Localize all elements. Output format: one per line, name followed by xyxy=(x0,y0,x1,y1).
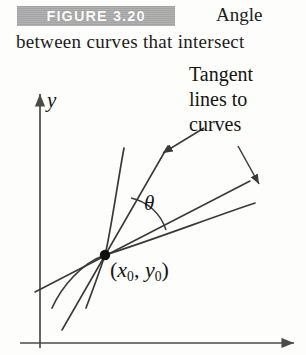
point-label-x: x xyxy=(117,257,127,282)
diagram-canvas: y θ (x0, y0) Tangent lines to curves xyxy=(0,58,306,355)
point-label-comma: , xyxy=(134,257,145,282)
curve-shallow xyxy=(52,203,255,308)
figure-number-banner: FIGURE 3.20 xyxy=(17,6,175,26)
leader-arrow-shallow-tangent xyxy=(238,146,259,184)
tangent-line-steep xyxy=(62,146,168,330)
caption-second-line: between curves that intersect xyxy=(16,31,245,53)
tangent-lines-annotation: Tangent lines to curves xyxy=(189,62,253,137)
annotation-line-3: curves xyxy=(189,112,253,137)
annotation-line-1: Tangent xyxy=(189,62,253,87)
intersection-point-label: (x0, y0) xyxy=(110,257,169,285)
point-label-x-subscript: 0 xyxy=(127,269,134,284)
y-axis-label: y xyxy=(47,88,56,113)
figure-caption: FIGURE 3.20 Angle between curves that in… xyxy=(0,0,306,60)
annotation-line-2: lines to xyxy=(189,87,253,112)
point-label-close-paren: ) xyxy=(161,257,168,282)
point-label-y: y xyxy=(145,257,155,282)
figure-number-label: FIGURE 3.20 xyxy=(17,6,175,26)
angle-theta-label: θ xyxy=(144,191,154,216)
caption-first-word: Angle xyxy=(216,4,262,26)
figure-page: FIGURE 3.20 Angle between curves that in… xyxy=(0,0,306,355)
intersection-point-dot xyxy=(100,250,110,260)
